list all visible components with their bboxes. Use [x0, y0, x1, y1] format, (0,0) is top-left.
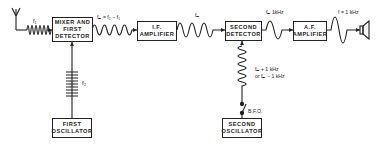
antenna-icon	[12, 8, 27, 30]
if-signal-waveform-2	[177, 23, 225, 37]
af-amplifier-block: A.F. AMPLIFIER	[293, 21, 327, 41]
fm-1khz-label: fₘ 1kHz	[266, 9, 284, 15]
bfo-label: B.F.O.	[248, 108, 262, 114]
second-oscillator-label: SECOND OSCILLATOR	[222, 121, 263, 135]
second-detector-block: SECOND DETECTOR	[225, 21, 262, 41]
if-amplifier-label: I.F. AMPLIFIER	[138, 24, 176, 38]
f1-label: f₁	[33, 18, 36, 24]
second-detector-label: SECOND DETECTOR	[226, 24, 261, 38]
bfo-frequency-label-2: or fₘ − 1 kHz	[255, 73, 285, 79]
first-oscillator-block: FIRST OSCILLATOR	[52, 118, 92, 138]
af-amplifier-label: A.F. AMPLIFIER	[293, 24, 328, 38]
if-signal-waveform-1	[92, 25, 137, 35]
bfo-frequency-label-1: fₘ + 1 kHz	[255, 66, 279, 72]
second-oscillator-block: SECOND OSCILLATOR	[222, 118, 262, 138]
fm-equation-label: fₘ = f₂ − f₁	[97, 14, 120, 20]
if-amplifier-block: I.F. AMPLIFIER	[137, 21, 177, 41]
fm-label: fₘ	[195, 12, 199, 18]
af-signal-waveform-2	[327, 17, 360, 43]
bfo-signal-coil	[238, 46, 246, 103]
af-signal-waveform-1	[262, 21, 293, 39]
mixer-first-detector-block: MIXER AND FIRST DETECTOR	[52, 17, 93, 42]
mixer-label: MIXER AND FIRST DETECTOR	[53, 19, 92, 40]
f-1khz-label: f = 1 kHz	[338, 9, 359, 15]
first-oscillator-label: FIRST OSCILLATOR	[52, 121, 93, 135]
speaker-icon	[360, 21, 369, 39]
f2-label: f₂	[82, 80, 86, 86]
bfo-switch-icon	[240, 102, 246, 118]
